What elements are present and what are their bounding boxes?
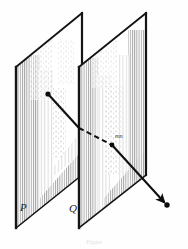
plane-q-label: Q [69,202,77,214]
ray-pierce-q-dot [110,143,115,148]
geometry-figure: P Q [0,0,188,249]
figure-container: P Q [0,0,188,249]
ray-end-dot [164,202,169,207]
figure-caption: Figure [86,239,102,245]
segment-mn-label: mn [115,132,123,139]
ray-start-dot [45,91,50,96]
plane-p-label: P [19,201,27,213]
plane-q-shading [79,30,147,233]
plane-p: P [16,13,82,233]
